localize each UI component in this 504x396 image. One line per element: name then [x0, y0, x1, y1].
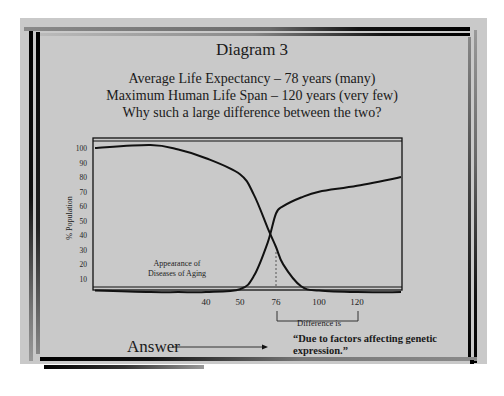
x-tick-label: 120 [350, 297, 364, 307]
disease-curve [95, 177, 401, 292]
annotation-diseases: Diseases of Aging [148, 269, 206, 278]
y-tick-label: 10 [80, 275, 88, 284]
answer-label: Answer [127, 337, 180, 357]
y-tick-label: 60 [80, 202, 88, 211]
difference-label: Difference is [279, 318, 359, 328]
x-axis-ticks: 405076100120 [202, 297, 365, 307]
answer-text-line: expression.” [293, 345, 473, 357]
y-axis-ticks: 102030405060708090100 [76, 144, 88, 284]
x-tick-label: 76 [272, 297, 282, 307]
y-tick-label: 70 [80, 188, 88, 197]
y-tick-label: 90 [80, 159, 88, 168]
chart-frame [93, 138, 402, 290]
y-tick-label: 50 [80, 217, 88, 226]
answer-text-line: “Due to factors affecting genetic [293, 333, 473, 345]
x-tick-label: 100 [312, 297, 326, 307]
y-tick-label: 30 [80, 246, 88, 255]
right-arrow-icon [262, 345, 268, 350]
y-axis-label: % Population [65, 196, 74, 239]
survival-curve [95, 145, 401, 292]
y-tick-label: 80 [80, 173, 88, 182]
x-tick-label: 50 [236, 297, 246, 307]
answer-text: “Due to factors affecting genetic expres… [293, 333, 473, 357]
annotation-appearance: Appearance of [154, 259, 201, 268]
y-tick-label: 40 [80, 231, 88, 240]
y-tick-label: 20 [80, 260, 88, 269]
x-tick-label: 40 [202, 297, 212, 307]
y-tick-label: 100 [76, 144, 88, 153]
